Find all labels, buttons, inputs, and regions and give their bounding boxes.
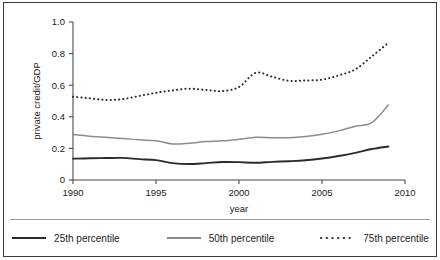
series-line-50th-percentile <box>73 105 388 144</box>
legend-item-25th: 25th percentile <box>11 233 120 244</box>
legend-swatch-25th <box>11 233 47 243</box>
legend-item-75th: 75th percentile <box>320 233 429 244</box>
legend-swatch-75th <box>320 233 356 243</box>
legend-swatch-50th <box>166 233 202 243</box>
x-axis-tick-label: 2000 <box>228 187 249 198</box>
chart-legend: 25th percentile 50th percentile 75th per… <box>10 228 430 248</box>
x-axis-tick-label: 2010 <box>394 187 415 198</box>
x-axis-tick-label: 2005 <box>311 187 332 198</box>
series-line-75th-percentile <box>73 43 388 100</box>
series-line-25th-percentile <box>73 147 388 165</box>
y-axis-tick-label: 0.8 <box>52 48 65 59</box>
legend-label-25th: 25th percentile <box>54 233 120 244</box>
x-axis-tick-label: 1990 <box>62 187 83 198</box>
legend-item-50th: 50th percentile <box>166 233 275 244</box>
legend-separator <box>10 219 430 220</box>
y-axis-tick-label: 0.2 <box>52 143 65 154</box>
legend-label-50th: 50th percentile <box>209 233 275 244</box>
y-axis-title: private credit/GDP <box>31 62 42 140</box>
y-axis-tick-label: 0.4 <box>52 111 65 122</box>
x-axis-tick-label: 1995 <box>145 187 166 198</box>
y-axis-tick-label: 1.0 <box>52 16 65 27</box>
legend-label-75th: 75th percentile <box>363 233 429 244</box>
y-axis-tick-label: 0.6 <box>52 80 65 91</box>
chart-figure: 00.20.40.60.81.019901995200020052010year… <box>0 0 440 260</box>
y-axis-tick-label: 0 <box>60 174 65 185</box>
x-axis-title: year <box>230 203 248 214</box>
chart-plot-area: 00.20.40.60.81.019901995200020052010year… <box>0 0 440 260</box>
